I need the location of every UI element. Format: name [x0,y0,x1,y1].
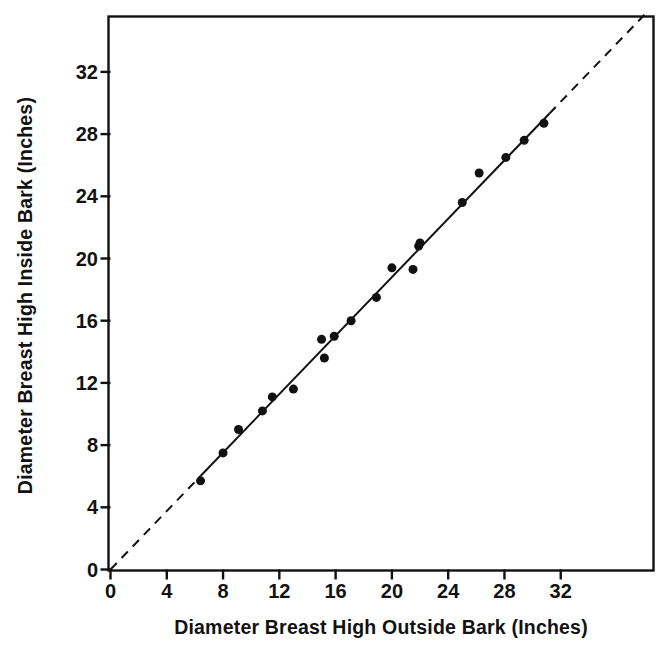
x-tick-label: 0 [105,581,116,601]
x-tick-label: 28 [493,581,515,601]
extrapolation-segment [111,476,201,570]
data-points-group [196,119,548,486]
data-point [347,316,356,325]
data-point [258,406,267,415]
extrapolation-segment [549,11,647,113]
data-point [475,168,484,177]
data-point [539,119,548,128]
x-tick-label: 4 [161,581,172,601]
x-tick-label: 24 [437,581,459,601]
data-point [409,265,418,274]
data-point [268,392,277,401]
data-point [317,335,326,344]
plot-area [0,0,667,660]
data-point [234,425,243,434]
data-point [387,263,396,272]
x-tick-label: 8 [217,581,228,601]
data-point [520,136,529,145]
data-point [372,293,381,302]
data-point [196,476,205,485]
x-tick-label: 32 [550,581,572,601]
x-tick-label: 12 [268,581,290,601]
data-point [219,448,228,457]
data-point [320,354,329,363]
x-tick-label: 20 [381,581,403,601]
data-point [289,385,298,394]
x-tick-label: 16 [324,581,346,601]
data-point [501,153,510,162]
data-point [330,332,339,341]
scatter-plot-figure: Diameter Breast High Inside Bark (Inches… [0,0,667,660]
x-axis-tick-labels: 048121620242832 [0,581,667,611]
data-point [416,238,425,247]
x-axis-title: Diameter Breast High Outside Bark (Inche… [108,616,654,639]
data-point [458,198,467,207]
